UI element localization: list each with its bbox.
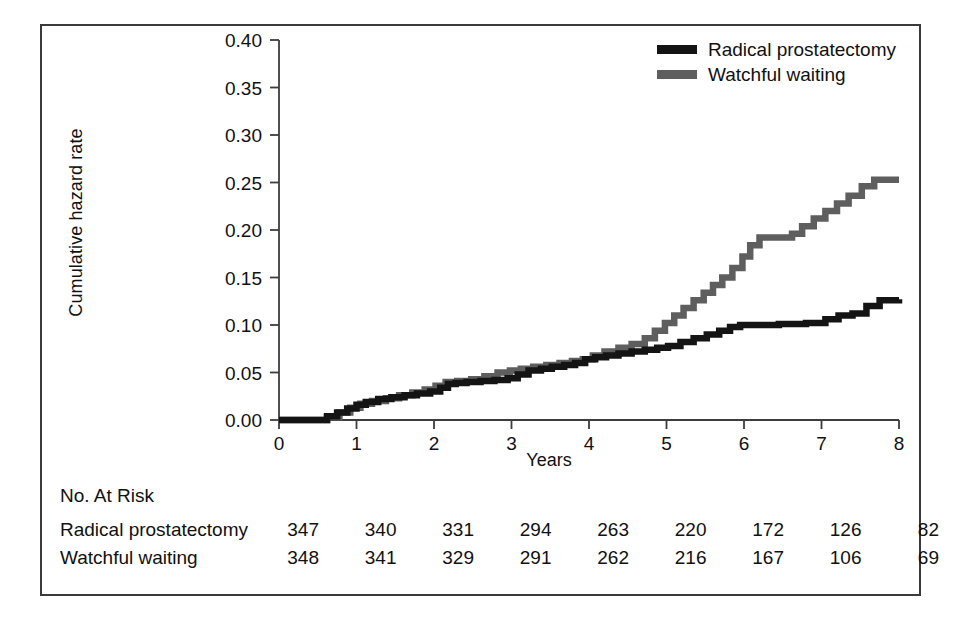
y-tick-label-0.40: 0.40 [192,31,262,50]
chart-region: Cumulative hazard rate Years 0.000.050.1… [42,26,919,474]
series-layer [279,180,899,420]
y-tick-label-0.10: 0.10 [192,316,262,335]
legend-item-radical-prostatectomy: Radical prostatectomy [657,37,896,62]
risk-table: No. At Risk Radical prostatectomy Watchf… [42,474,919,594]
legend-label-radical-prostatectomy: Radical prostatectomy [708,40,896,59]
y-tick-label-0.35: 0.35 [192,79,262,98]
risk-value: 106 [810,547,862,569]
chart-legend: Radical prostatectomy Watchful waiting [657,37,896,87]
risk-value: 341 [345,547,397,569]
risk-value: 348 [267,547,319,569]
x-tick-label-5: 5 [647,434,687,453]
x-tick-label-8: 8 [879,434,919,453]
legend-item-watchful-waiting: Watchful waiting [657,62,896,87]
risk-value: 329 [422,547,474,569]
x-tick-label-7: 7 [802,434,842,453]
risk-value: 294 [500,519,552,541]
risk-value: 291 [500,547,552,569]
x-tick-label-0: 0 [259,434,299,453]
risk-value: 262 [577,547,629,569]
risk-table-title: No. At Risk [60,485,154,507]
x-tick-label-1: 1 [337,434,377,453]
risk-value: 69 [887,547,939,569]
risk-value: 331 [422,519,474,541]
legend-label-watchful-waiting: Watchful waiting [708,65,846,84]
legend-swatch-watchful-waiting [657,70,697,79]
legend-swatch-radical-prostatectomy [657,45,697,54]
y-tick-label-0.05: 0.05 [192,364,262,383]
series-line-watchful-waiting [279,180,899,420]
risk-value: 220 [655,519,707,541]
x-tick-label-4: 4 [569,434,609,453]
risk-value: 172 [732,519,784,541]
figure-frame: Cumulative hazard rate Years 0.000.050.1… [40,24,921,596]
risk-value: 126 [810,519,862,541]
y-axis-title: Cumulative hazard rate [66,73,87,373]
risk-value: 340 [345,519,397,541]
x-tick-label-3: 3 [492,434,532,453]
x-tick-label-2: 2 [414,434,454,453]
y-tick-label-0.20: 0.20 [192,221,262,240]
x-axis-title: Years [239,450,859,471]
y-tick-label-0.15: 0.15 [192,269,262,288]
risk-value: 216 [655,547,707,569]
y-tick-label-0.00: 0.00 [192,411,262,430]
risk-value: 347 [267,519,319,541]
y-tick-label-0.25: 0.25 [192,174,262,193]
x-tick-label-6: 6 [724,434,764,453]
y-tick-label-0.30: 0.30 [192,126,262,145]
risk-value: 263 [577,519,629,541]
series-line-radical-prostatectomy [279,299,899,420]
risk-row-label-radical-prostatectomy: Radical prostatectomy [60,519,248,541]
risk-value: 167 [732,547,784,569]
risk-value: 82 [887,519,939,541]
risk-row-label-watchful-waiting: Watchful waiting [60,547,198,569]
plot-canvas [42,26,919,474]
